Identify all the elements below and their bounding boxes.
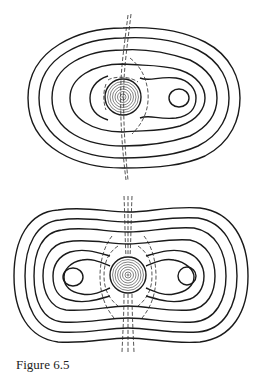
figure-caption-label: Figure 6.5: [16, 357, 69, 372]
bottom-left-lobe-minimum: [63, 268, 83, 286]
figure-caption: Figure 6.5: [16, 357, 69, 373]
top-lobe-minimum: [169, 89, 189, 107]
top-center-body: [105, 79, 141, 115]
top-contour-plot: [28, 14, 240, 180]
bottom-contour-plot: [14, 196, 248, 352]
bottom-center-body: [110, 257, 146, 293]
